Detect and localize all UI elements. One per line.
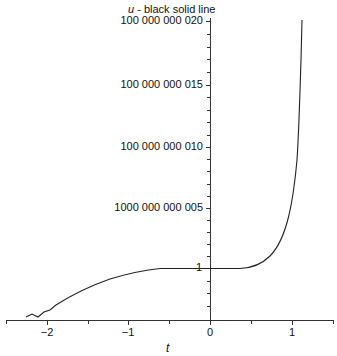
u-curve <box>26 20 302 317</box>
x-axis <box>6 320 334 325</box>
y-axis <box>206 18 211 325</box>
plot-area <box>0 0 337 356</box>
